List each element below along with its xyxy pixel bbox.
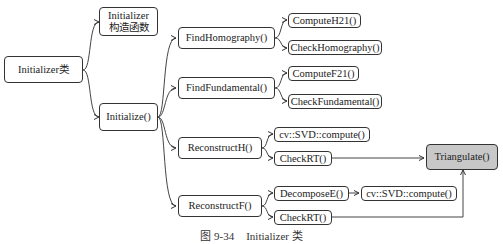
node-initializer-class: Initializer类 <box>4 56 83 83</box>
node-label: ReconstructF() <box>189 200 252 212</box>
figure-title: Initializer 类 <box>246 230 303 242</box>
node-label: cv::SVD::compute() <box>366 188 452 200</box>
node-label: CheckHomography() <box>290 42 379 54</box>
node-check-rt-f: CheckRT() <box>274 210 332 225</box>
node-label: FindFundamental() <box>186 82 267 94</box>
node-check-homography: CheckHomography() <box>288 40 382 55</box>
node-label-line2: 构造函数 <box>108 22 149 34</box>
node-reconstruct-h: ReconstructH() <box>178 137 262 159</box>
node-label: CheckRT() <box>280 153 327 165</box>
node-label: cv::SVD::compute() <box>279 129 365 141</box>
node-label: Triangulate() <box>434 151 489 163</box>
node-label: DecomposeE() <box>280 188 343 200</box>
node-svd-compute-f: cv::SVD::compute() <box>361 186 457 201</box>
figure-caption: 图 9-34Initializer 类 <box>0 227 503 243</box>
node-label: CheckFundamental() <box>291 96 380 108</box>
node-label: ComputeH21() <box>293 15 357 27</box>
node-triangulate: Triangulate() <box>426 144 498 170</box>
node-reconstruct-f: ReconstructF() <box>178 195 262 217</box>
node-initialize: Initialize() <box>99 103 158 131</box>
node-compute-f21: ComputeF21() <box>288 66 359 81</box>
node-label: FindHomography() <box>186 32 268 44</box>
node-compute-h21: ComputeH21() <box>288 13 361 28</box>
node-label: CheckRT() <box>280 212 327 224</box>
node-svd-compute-h: cv::SVD::compute() <box>274 127 370 142</box>
node-check-fundamental: CheckFundamental() <box>288 94 382 109</box>
node-label: Initialize() <box>106 111 150 123</box>
node-label: ComputeF21() <box>293 68 355 80</box>
node-label: ReconstructH() <box>188 142 253 154</box>
node-find-fundamental: FindFundamental() <box>178 77 275 99</box>
node-label-line1: Initializer <box>108 10 149 22</box>
node-label: Initializer类 <box>18 64 69 76</box>
node-check-rt-h: CheckRT() <box>274 151 332 166</box>
node-decompose-e: DecomposeE() <box>274 186 349 201</box>
figure-number: 图 9-34 <box>200 230 234 242</box>
node-initializer-constructor: Initializer 构造函数 <box>99 7 158 36</box>
initializer-class-diagram: Initializer类 Initializer 构造函数 Initialize… <box>0 0 503 244</box>
node-find-homography: FindHomography() <box>178 27 275 49</box>
